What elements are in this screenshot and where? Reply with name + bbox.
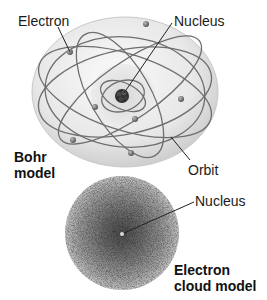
bohr-model: Electron Nucleus Orbit Bohr model: [14, 13, 225, 181]
nucleus-label-cloud: Nucleus: [195, 193, 246, 209]
orbit-label: Orbit: [188, 162, 218, 178]
electron-cloud-model: Nucleus Electron cloud model: [65, 176, 256, 294]
nucleus: [115, 89, 129, 103]
electron: [178, 96, 184, 102]
electron: [70, 137, 76, 143]
nucleus-label-bohr: Nucleus: [174, 13, 225, 29]
electron: [128, 150, 134, 156]
cloud-model-title-line1: Electron: [174, 262, 230, 278]
electron: [132, 116, 138, 122]
cloud-model-title-line2: cloud model: [174, 278, 256, 294]
bohr-model-title-line1: Bohr: [14, 149, 47, 165]
bohr-model-title-line2: model: [14, 165, 55, 181]
electron: [143, 21, 149, 27]
cloud-nucleus: [120, 232, 124, 236]
atom-models-diagram: Electron Nucleus Orbit Bohr model Nucleu…: [0, 0, 267, 300]
electron-label: Electron: [18, 13, 69, 29]
electron: [92, 104, 98, 110]
